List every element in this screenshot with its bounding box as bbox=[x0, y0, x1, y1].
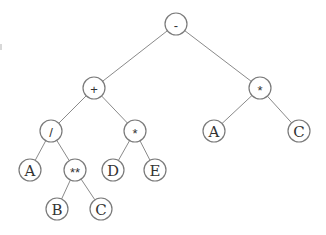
tree-edge bbox=[35, 141, 46, 161]
tree-node: - bbox=[165, 13, 187, 35]
tree-node: C bbox=[90, 198, 112, 220]
tree-edge bbox=[185, 31, 252, 82]
node-label: E bbox=[150, 162, 161, 180]
tree-edge bbox=[62, 180, 71, 199]
node-label: / bbox=[49, 125, 53, 140]
tree-node: D bbox=[102, 159, 124, 181]
tree-edge bbox=[57, 140, 69, 160]
node-label: ** bbox=[70, 165, 80, 180]
tree-edge bbox=[140, 141, 150, 160]
tree-node: E bbox=[144, 159, 166, 181]
node-label: + bbox=[90, 82, 98, 97]
tree-node: ** bbox=[64, 159, 86, 181]
node-label: A bbox=[208, 123, 220, 141]
tree-edge bbox=[267, 96, 291, 123]
node-label: B bbox=[51, 201, 62, 219]
tree-edge bbox=[59, 96, 86, 123]
tree-node: * bbox=[124, 120, 146, 142]
node-label: C bbox=[293, 123, 304, 141]
tree-edge bbox=[103, 31, 168, 81]
node-label: D bbox=[107, 162, 119, 180]
node-label: * bbox=[132, 126, 137, 141]
tree-node: + bbox=[83, 77, 105, 99]
tree-edge bbox=[222, 96, 252, 124]
tree-node: A bbox=[203, 120, 225, 142]
node-label: * bbox=[257, 83, 262, 98]
tree-edge bbox=[118, 141, 129, 161]
tree-svg: -+*/*ACA**DEBC bbox=[0, 0, 326, 235]
node-label: - bbox=[174, 18, 178, 33]
tree-node: C bbox=[288, 120, 310, 142]
tree-edge bbox=[81, 179, 95, 200]
node-label: C bbox=[95, 201, 106, 219]
expression-tree-diagram: -+*/*ACA**DEBC bbox=[0, 0, 326, 235]
tree-node: A bbox=[19, 159, 41, 181]
tree-node: * bbox=[249, 77, 271, 99]
tree-edge bbox=[102, 96, 128, 123]
tree-node: B bbox=[46, 198, 68, 220]
nodes-layer: -+*/*ACA**DEBC bbox=[19, 13, 310, 220]
node-label: A bbox=[24, 162, 36, 180]
tree-node: / bbox=[40, 120, 62, 142]
